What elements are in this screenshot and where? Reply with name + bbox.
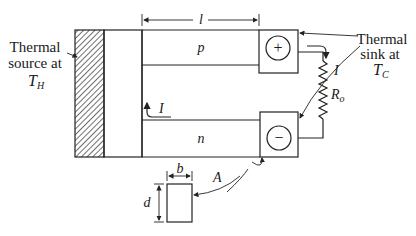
depth-label: d [144, 195, 152, 210]
hot-junction-block [104, 30, 142, 157]
source-label-line2: source at [8, 55, 63, 71]
cross-section [154, 171, 192, 222]
sink-pointer-top [300, 33, 358, 36]
sink-pointer-bottom [300, 46, 360, 118]
width-label: b [177, 161, 184, 176]
area-label: A [212, 170, 222, 185]
sink-label-line1: Thermal [357, 31, 408, 47]
sink-label-line2: sink at [360, 46, 400, 62]
source-temp-label: TH [28, 72, 45, 91]
plus-sign: + [273, 39, 282, 56]
current-label-left: I [158, 101, 165, 116]
p-leg-label: p [197, 40, 205, 55]
minus-sign: − [274, 129, 283, 146]
source-label-line1: Thermal [10, 39, 61, 55]
resistor-label: Ro [330, 87, 345, 104]
area-pointer-upper [252, 158, 262, 165]
sink-temp-label: TC [373, 61, 389, 80]
n-leg-label: n [198, 131, 205, 146]
thermoelectric-diagram: Thermal source at TH Thermal sink at TC … [0, 0, 416, 236]
length-label: l [199, 12, 203, 27]
thermal-source-block [75, 30, 104, 157]
area-pointer-top [227, 169, 248, 192]
load-resistor-circuit [298, 52, 327, 138]
resistor-zigzag [319, 61, 327, 119]
